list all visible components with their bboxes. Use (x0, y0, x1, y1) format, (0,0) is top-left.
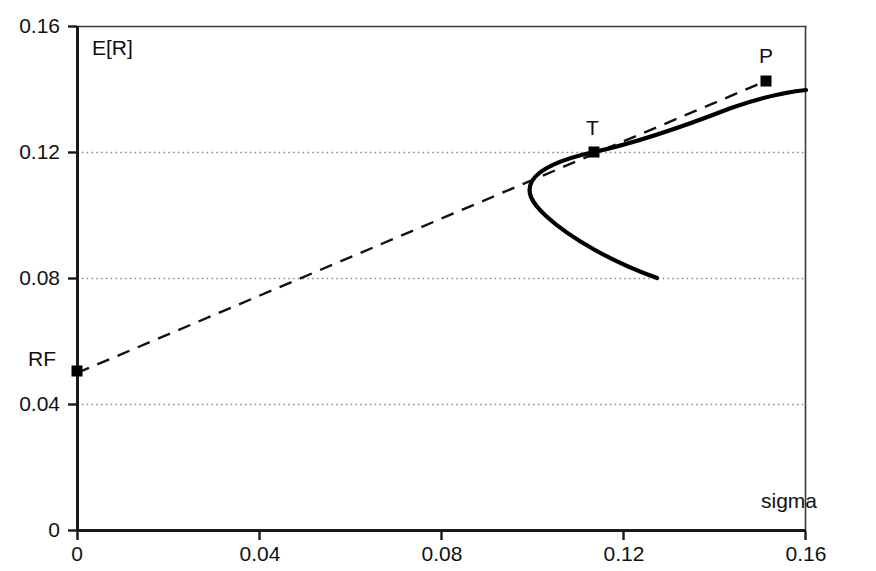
y-axis-ticks (68, 27, 77, 531)
x-axis-ticks (78, 531, 806, 540)
point-label-rf: RF (28, 347, 56, 371)
y-tick-label-0.16: 0.16 (0, 14, 60, 38)
x-tick-label-0.08: 0.08 (392, 542, 492, 566)
x-tick-label-0.12: 0.12 (574, 542, 674, 566)
y-tick-label-0.12: 0.12 (0, 140, 60, 164)
x-tick-label-0.04: 0.04 (210, 542, 310, 566)
y-tick-label-0.04: 0.04 (0, 392, 60, 416)
marker-rf (72, 366, 83, 377)
x-tick-label-0.16: 0.16 (756, 542, 856, 566)
x-axis-title: sigma (761, 489, 817, 513)
y-tick-label-0: 0 (0, 518, 60, 542)
chart-plot-area (0, 0, 876, 571)
y-tick-label-0.08: 0.08 (0, 266, 60, 290)
x-tick-label-0: 0 (47, 542, 107, 566)
point-label-t: T (586, 116, 599, 140)
marker-t (589, 147, 600, 158)
y-axis-title: E[R] (92, 36, 133, 60)
marker-p (761, 76, 772, 87)
point-label-p: P (759, 44, 773, 68)
chart-container: 0.16 0.12 0.08 0.04 0 0 0.04 0.08 0.12 0… (0, 0, 876, 571)
